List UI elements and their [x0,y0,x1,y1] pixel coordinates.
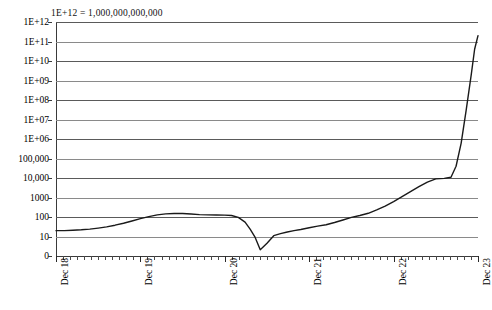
y-axis-tick [48,198,52,199]
y-axis-tick [48,237,52,238]
x-axis-tick-label: Dec 19 [144,258,154,285]
y-axis-tick [48,22,52,23]
y-axis-tick [48,159,52,160]
y-axis-tick [48,256,52,257]
y-axis-tick [48,81,52,82]
x-axis-major-tick [478,256,479,262]
y-axis-labels: 1E+121E+111E+101E+091E+081E+071E+06100,0… [0,22,52,256]
x-axis-tick-label: Dec 23 [482,258,492,285]
y-axis-tick [48,178,52,179]
y-axis-tick-label: 100,000 [18,154,52,164]
x-axis-tick-label: Dec 20 [229,258,239,285]
x-axis-tick-label: Dec 22 [398,258,408,285]
x-axis-tick-label: Dec 21 [313,258,323,285]
y-axis-tick [48,61,52,62]
chart-container: 1E+12 = 1,000,000,000,000 1E+121E+111E+1… [0,0,492,310]
data-series-line [56,22,478,256]
y-axis-tick [48,217,52,218]
y-axis-tick [48,42,52,43]
x-axis-labels: Dec 18Dec 19Dec 20Dec 21Dec 22Dec 23 [56,258,478,308]
y-axis-tick [48,139,52,140]
x-axis-tick-label: Dec 18 [60,258,70,285]
y-axis-tick [48,120,52,121]
plot-area [56,22,478,256]
chart-annotation: 1E+12 = 1,000,000,000,000 [51,7,163,19]
y-axis-tick [48,100,52,101]
